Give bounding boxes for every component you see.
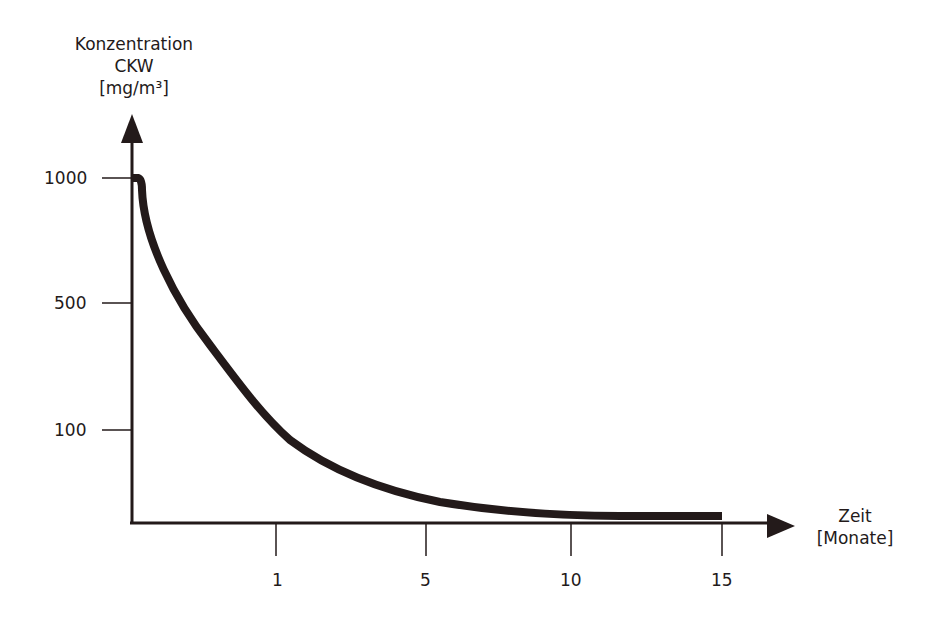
y-tick-label-100: 100 [54,420,86,440]
y-tick-label-500: 500 [54,293,86,313]
x-tick-label-10: 10 [560,570,582,590]
concentration-curve [132,178,722,516]
x-tick-label-15: 15 [711,570,733,590]
chart-plot [0,0,939,631]
x-tick-label-5: 5 [420,570,431,590]
y-tick-label-1000: 1000 [44,168,87,188]
y-axis-arrow-icon [121,114,143,143]
x-axis-arrow-icon [767,514,795,538]
x-tick-label-1: 1 [272,570,283,590]
